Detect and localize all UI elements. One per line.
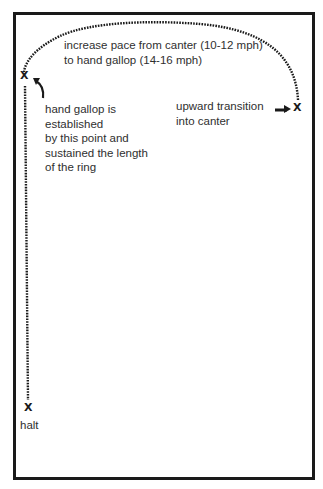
transition-marker: X: [293, 101, 301, 114]
label-line: upward transition: [176, 99, 264, 114]
label-line: increase pace from canter (10-12 mph): [64, 38, 263, 53]
upward-transition-label: upward transition into canter: [176, 99, 264, 128]
gallop-established-label: hand gallop is established by this point…: [45, 102, 148, 175]
curved-arrow-icon: [33, 78, 43, 98]
path-diagram: [0, 0, 323, 489]
label-line: established: [45, 117, 148, 132]
halt-marker: X: [24, 401, 32, 414]
label-line: into canter: [176, 114, 264, 129]
ride-path-straight: [25, 86, 28, 400]
halt-label: halt: [20, 418, 39, 433]
increase-pace-label: increase pace from canter (10-12 mph) to…: [64, 38, 263, 67]
label-line: to hand gallop (14-16 mph): [64, 53, 263, 68]
start-marker: X: [20, 69, 28, 82]
label-line: sustained the length: [45, 146, 148, 161]
label-line: by this point and: [45, 131, 148, 146]
label-line: hand gallop is: [45, 102, 148, 117]
pointing-arrow-icon: [275, 105, 291, 113]
label-line: of the ring: [45, 160, 148, 175]
